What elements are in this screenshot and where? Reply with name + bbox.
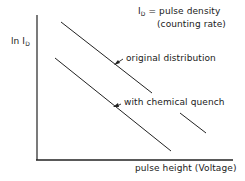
arrowhead-original-icon xyxy=(114,60,120,65)
def-sub: D xyxy=(141,10,146,17)
annotation-original-distribution: original distribution xyxy=(126,54,216,63)
y-axis-label: ln ID xyxy=(11,37,30,47)
annotation-chemical-quench: with chemical quench xyxy=(124,98,225,107)
definition-line2: (counting rate) xyxy=(157,20,226,29)
original-distribution-line-continued xyxy=(180,113,206,133)
y-label-main: ln I xyxy=(11,36,25,46)
definition-line1: ID = pulse density xyxy=(138,7,220,17)
def-text: = pulse density xyxy=(148,6,220,16)
x-axis-label: pulse height (Voltage) xyxy=(135,164,237,173)
y-label-sub: D xyxy=(25,40,30,47)
